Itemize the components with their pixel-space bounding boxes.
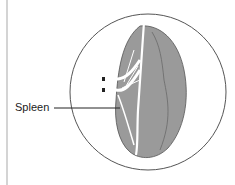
spleen-label: Spleen (15, 101, 49, 113)
spleen-diagram (0, 0, 235, 185)
vein-cut-end (102, 88, 105, 92)
artery-cut-end (102, 77, 105, 81)
